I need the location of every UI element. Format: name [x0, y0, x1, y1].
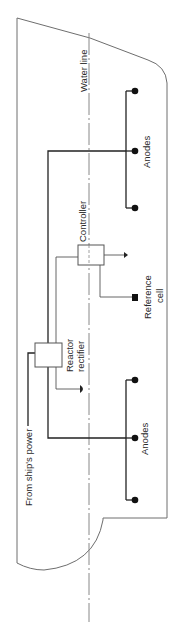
- anode-group-upper: [132, 88, 139, 212]
- reference-cell-label-line2: cell: [154, 289, 165, 303]
- anode-icon: [132, 88, 139, 95]
- anode-icon: [132, 497, 139, 504]
- anode-icon: [132, 148, 139, 155]
- controller-ground-icon: [124, 252, 128, 258]
- cathodic-protection-diagram: Water line: [0, 0, 181, 640]
- main-wiring: [28, 91, 135, 500]
- reactor-rectifier-box: [35, 343, 62, 367]
- reactor-rectifier-label-line2: rectifier: [75, 341, 86, 372]
- reference-cell-label-line1: Reference: [142, 275, 153, 319]
- anode-icon: [132, 435, 139, 442]
- anodes-upper-label: Anodes: [141, 136, 152, 168]
- controller-label: Controller: [77, 201, 88, 242]
- anode-group-lower: [132, 377, 139, 504]
- rectifier-ground-icon: [80, 385, 83, 393]
- ships-power-label: From ship's power: [23, 429, 34, 506]
- anode-icon: [132, 377, 139, 384]
- anode-icon: [132, 205, 139, 212]
- reference-cell-icon: [132, 294, 138, 301]
- reactor-rectifier-label-line1: Reactor: [64, 339, 75, 372]
- controller-box: [78, 245, 104, 265]
- anodes-lower-label: Anodes: [139, 423, 150, 455]
- water-line-label: Water line: [78, 50, 89, 92]
